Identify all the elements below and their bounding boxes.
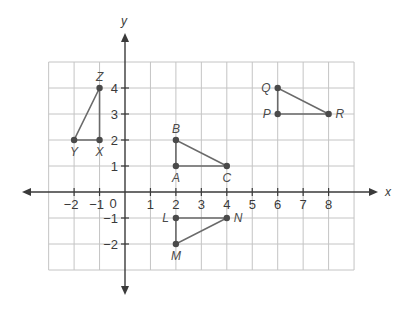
x-tick-label: 5 (249, 197, 256, 212)
x-tick-label: 8 (325, 197, 332, 212)
y-tick-label: 3 (111, 107, 118, 122)
origin-label: 0 (109, 196, 116, 211)
vertex-label-r: R (336, 107, 345, 121)
vertex-label-b: B (172, 122, 180, 136)
y-tick-label: 1 (111, 159, 118, 174)
vertex-label-a: A (171, 171, 180, 185)
x-tick-label: −2 (64, 197, 79, 212)
vertex-label-y: Y (70, 145, 79, 159)
y-axis-up-arrow-icon (121, 33, 129, 42)
vertex-c (224, 163, 230, 169)
y-tick-label: 2 (111, 133, 118, 148)
vertex-label-c: C (222, 171, 231, 185)
x-tick-label: 2 (172, 197, 179, 212)
x-axis-right-arrow-icon (369, 188, 378, 196)
vertex-label-x: X (95, 145, 105, 159)
vertex-p (275, 111, 281, 117)
x-tick-label: −1 (89, 197, 104, 212)
x-tick-label: 1 (147, 197, 154, 212)
y-tick-label: −2 (103, 237, 118, 252)
vertex-n (224, 215, 230, 221)
vertex-label-p: P (263, 107, 271, 121)
x-axis-label: x (384, 185, 392, 199)
coordinate-plane: x y 0 −2−1123456784321−1−2 XYZABCPQRLMN (0, 0, 409, 313)
vertex-label-n: N (234, 211, 243, 225)
x-tick-label: 7 (300, 197, 307, 212)
vertex-label-z: Z (95, 70, 104, 84)
vertex-r (325, 111, 331, 117)
y-tick-label: −1 (103, 211, 118, 226)
vertex-m (173, 241, 179, 247)
vertex-x (96, 137, 102, 143)
triangle-lmn: LMN (162, 211, 243, 263)
x-axis-left-arrow-icon (22, 188, 31, 196)
y-axis-label: y (120, 14, 128, 28)
x-tick-label: 6 (274, 197, 281, 212)
vertex-b (173, 137, 179, 143)
x-tick-label: 3 (198, 197, 205, 212)
vertex-y (71, 137, 77, 143)
x-tick-label: 4 (223, 197, 230, 212)
vertex-label-q: Q (261, 81, 270, 95)
vertex-q (275, 85, 281, 91)
vertex-label-m: M (171, 249, 181, 263)
y-axis-down-arrow-icon (121, 286, 129, 295)
y-tick-label: 4 (111, 81, 118, 96)
vertex-z (96, 85, 102, 91)
vertex-label-l: L (162, 211, 169, 225)
vertex-l (173, 215, 179, 221)
vertex-a (173, 163, 179, 169)
